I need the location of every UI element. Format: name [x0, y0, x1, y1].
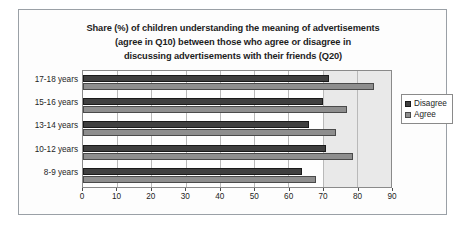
- chart-title-line: Share (%) of children understanding the …: [39, 21, 427, 35]
- x-tick-label: 50: [250, 192, 259, 201]
- chart-figure: Share (%) of children understanding the …: [18, 9, 447, 215]
- legend-swatch-disagree: [405, 101, 411, 107]
- x-tick-label: 0: [80, 192, 85, 201]
- legend-label: Disagree: [414, 99, 447, 108]
- bar-disagree: [83, 145, 326, 152]
- tick-mark: [323, 188, 324, 191]
- x-tick-label: 60: [284, 192, 293, 201]
- tick-mark: [220, 188, 221, 191]
- bar-agree: [83, 176, 316, 183]
- chart-title: Share (%) of children understanding the …: [39, 21, 427, 63]
- bar-group: 8-9 years: [83, 164, 391, 187]
- legend-item: Agree: [405, 109, 447, 120]
- x-tick-label: 30: [181, 192, 190, 201]
- x-tick-label: 80: [353, 192, 362, 201]
- chart-title-line: discussing advertisements with their fri…: [39, 49, 427, 63]
- x-tick-label: 10: [112, 192, 121, 201]
- chart-legend: DisagreeAgree: [401, 94, 453, 124]
- tick-mark: [392, 188, 393, 191]
- bar-agree: [83, 129, 336, 136]
- tick-mark: [358, 188, 359, 191]
- tick-mark: [82, 188, 83, 191]
- x-tick-label: 20: [146, 192, 155, 201]
- gridline: [391, 71, 392, 187]
- plot-wrapper: 17-18 years15-16 years13-14 years10-12 y…: [82, 70, 392, 188]
- bar-group: 15-16 years: [83, 94, 391, 117]
- bar-agree: [83, 83, 374, 90]
- category-label: 17-18 years: [35, 75, 78, 84]
- x-tick-label: 70: [319, 192, 328, 201]
- x-tick-label: 40: [215, 192, 224, 201]
- tick-mark: [185, 188, 186, 191]
- bar-agree: [83, 153, 353, 160]
- category-label: 10-12 years: [35, 145, 78, 154]
- bar-groups: 17-18 years15-16 years13-14 years10-12 y…: [83, 71, 391, 187]
- bar-group: 17-18 years: [83, 71, 391, 94]
- category-label: 13-14 years: [35, 121, 78, 130]
- bar-disagree: [83, 168, 302, 175]
- legend-label: Agree: [414, 110, 436, 119]
- legend-swatch-agree: [405, 112, 411, 118]
- category-label: 15-16 years: [35, 98, 78, 107]
- bar-disagree: [83, 75, 329, 82]
- bar-group: 13-14 years: [83, 117, 391, 140]
- bar-disagree: [83, 98, 323, 105]
- x-tick-label: 90: [387, 192, 396, 201]
- tick-mark: [151, 188, 152, 191]
- category-label: 8-9 years: [44, 168, 78, 177]
- legend-item: Disagree: [405, 98, 447, 109]
- bar-agree: [83, 106, 347, 113]
- tick-mark: [289, 188, 290, 191]
- bar-group: 10-12 years: [83, 141, 391, 164]
- tick-mark: [254, 188, 255, 191]
- chart-title-line: (agree in Q10) between those who agree o…: [39, 35, 427, 49]
- tick-mark: [116, 188, 117, 191]
- bar-disagree: [83, 121, 309, 128]
